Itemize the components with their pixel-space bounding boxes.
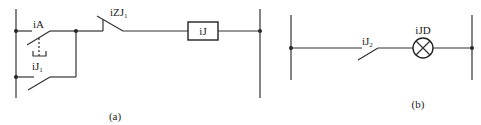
diagram-b: iJ2 iJD (b): [289, 15, 474, 111]
iJ1-label: iJ1: [32, 60, 43, 74]
iJ2-label: iJ2: [362, 35, 373, 49]
lamp-iJD-icon: [413, 38, 433, 58]
caption-a: (a): [109, 110, 122, 123]
diagram-a: iA iJ1 iZJ1 iJ (a): [14, 6, 262, 123]
contact-iZJ1: [76, 16, 188, 31]
lamp-label: iJD: [415, 24, 430, 36]
caption-b: (b): [412, 98, 425, 111]
iA-label: iA: [33, 18, 44, 30]
iZJ1-label: iZJ1: [110, 6, 128, 20]
contact-iJ2: [358, 48, 378, 60]
contact-iA: [16, 31, 76, 56]
circuit-diagram: iA iJ1 iZJ1 iJ (a) iJ2: [0, 0, 481, 125]
coil-label: iJ: [199, 25, 207, 37]
contact-iJ1: [16, 31, 76, 90]
